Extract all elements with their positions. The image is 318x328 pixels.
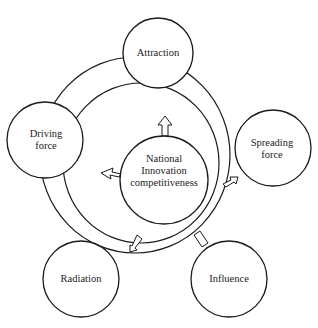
label-line: competitiveness <box>130 177 198 189</box>
node-attraction-label: Attraction <box>137 47 180 59</box>
node-center-label: National Innovation competitiveness <box>130 153 198 189</box>
label-line: National <box>130 153 198 165</box>
arrow-up-right-icon <box>223 177 238 187</box>
arrow-left-icon <box>101 168 121 179</box>
label-line: Innovation <box>130 165 198 177</box>
label-line: Radiation <box>61 273 102 285</box>
label-line: Influence <box>209 273 249 285</box>
node-radiation-label: Radiation <box>61 273 102 285</box>
label-line: Attraction <box>137 47 180 59</box>
arrow-up-icon <box>158 116 172 136</box>
node-spreading-force-label: Spreading force <box>251 137 294 161</box>
label-line: Spreading <box>251 137 294 149</box>
label-line: force <box>251 149 294 161</box>
label-line: Driving <box>30 128 63 140</box>
diagram-canvas: Attraction Driving force Spreading force… <box>0 0 318 328</box>
node-driving-force-label: Driving force <box>30 128 63 152</box>
label-line: force <box>30 140 63 152</box>
connector-influence <box>194 231 208 247</box>
node-influence-label: Influence <box>209 273 249 285</box>
